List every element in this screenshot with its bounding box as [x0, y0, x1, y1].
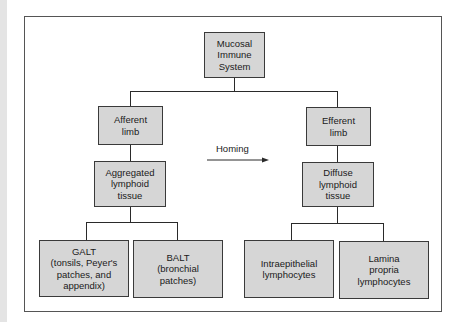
node-label: Lamina propria lymphocytes	[358, 253, 411, 288]
node-label: Aggregated lymphoid tissue	[105, 167, 154, 202]
node-label: GALT (tonsils, Peyer's patches, and appe…	[51, 246, 118, 292]
node-intraepithelial-lymphocytes: Intraepithelial lymphocytes	[244, 240, 334, 298]
node-mucosal-immune-system: Mucosal Immune System	[204, 32, 265, 78]
node-lamina-propria-lymphocytes: Lamina propria lymphocytes	[339, 241, 429, 299]
node-label: Afferent limb	[114, 114, 147, 137]
node-label: Mucosal Immune System	[217, 38, 252, 73]
connector-afferent-to-aggregated	[130, 145, 131, 161]
node-label: Efferent limb	[322, 115, 355, 138]
connector-left-bottom-horizontal	[86, 222, 178, 223]
node-efferent-limb: Efferent limb	[306, 107, 371, 146]
connector-to-efferent	[337, 91, 338, 107]
connector-right-bottom-horizontal	[291, 223, 384, 224]
connector-root-down	[234, 78, 235, 91]
node-galt: GALT (tonsils, Peyer's patches, and appe…	[39, 240, 129, 297]
homing-arrow-icon	[207, 157, 269, 163]
connector-diffuse-down	[337, 207, 338, 223]
connector-to-afferent	[130, 91, 131, 106]
node-label: BALT (bronchial patches)	[157, 252, 199, 287]
node-label: Diffuse lymphoid tissue	[319, 167, 357, 202]
node-label: Intraepithelial lymphocytes	[261, 258, 318, 281]
page-edge-strip	[0, 0, 7, 322]
connector-to-galt	[86, 222, 87, 240]
node-afferent-limb: Afferent limb	[98, 106, 163, 145]
connector-aggregated-down	[130, 207, 131, 222]
connector-to-balt	[177, 222, 178, 240]
homing-label: Homing	[216, 143, 249, 154]
connector-to-intraepithelial	[291, 223, 292, 240]
node-diffuse-lymphoid-tissue: Diffuse lymphoid tissue	[302, 162, 374, 207]
connector-root-horizontal	[130, 91, 338, 92]
node-aggregated-lymphoid-tissue: Aggregated lymphoid tissue	[94, 161, 166, 207]
connector-efferent-to-diffuse	[337, 146, 338, 162]
node-balt: BALT (bronchial patches)	[133, 240, 223, 298]
connector-to-lamina-propria	[383, 223, 384, 241]
diagram-canvas: Mucosal Immune System Afferent limb Aggr…	[0, 0, 467, 322]
